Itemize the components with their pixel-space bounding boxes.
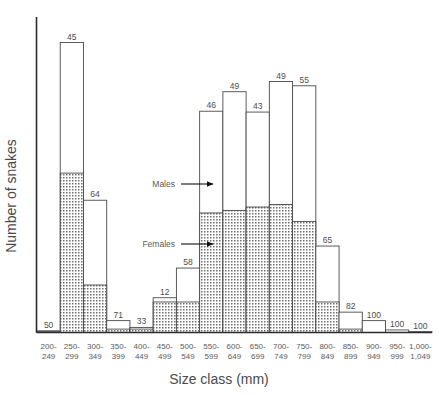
- x-tick-label: 550-599: [203, 342, 219, 361]
- x-tick-labels: 200-249250-299300-349350-399400-449450-4…: [41, 342, 432, 361]
- histogram-bar: 33: [130, 316, 153, 332]
- bar-value-label: 100: [390, 319, 404, 329]
- histogram-bar: 43: [246, 101, 269, 332]
- x-tick-label-line2: 749: [274, 352, 288, 361]
- x-axis-title: Size class (mm): [169, 371, 269, 387]
- x-tick-label-line1: 250-: [64, 342, 80, 351]
- x-tick-label: 950-999: [389, 342, 405, 361]
- snake-size-histogram: 5045647133125846494349556582100100100 20…: [0, 0, 439, 395]
- bar-female-segment: [269, 204, 292, 332]
- x-tick-label-line2: 999: [390, 352, 404, 361]
- x-tick-label-line1: 200-: [41, 342, 57, 351]
- bar-female-segment: [60, 173, 83, 332]
- bar-value-label: 46: [207, 100, 217, 110]
- bar-total-outline: [362, 321, 385, 333]
- x-tick-label-line2: 649: [228, 352, 242, 361]
- x-tick-label-line2: 849: [321, 352, 335, 361]
- x-tick-label-line2: 299: [65, 352, 79, 361]
- x-tick-label: 350-399: [110, 342, 126, 361]
- histogram-bar: 50: [37, 320, 60, 333]
- histogram-bar: 49: [269, 71, 292, 333]
- x-tick-label: 250-299: [64, 342, 80, 361]
- histogram-bar: 100: [409, 321, 432, 333]
- x-tick-label: 400-449: [134, 342, 150, 361]
- males-annotation-label: Males: [152, 179, 175, 189]
- bar-female-segment: [293, 221, 316, 332]
- histogram-bar: 49: [223, 81, 246, 333]
- x-tick-label-line2: 349: [88, 352, 102, 361]
- bar-female-segment: [83, 285, 106, 332]
- x-tick-label: 900-949: [366, 342, 382, 361]
- bar-value-label: 50: [44, 320, 54, 330]
- x-tick-label: 800-849: [319, 342, 335, 361]
- histogram-bar: 55: [293, 75, 316, 333]
- x-tick-label-line2: 599: [205, 352, 219, 361]
- bar-value-label: 49: [230, 81, 240, 91]
- x-tick-label-line1: 750-: [296, 342, 312, 351]
- x-tick-label: 700-749: [273, 342, 289, 361]
- bar-value-label: 43: [253, 101, 263, 111]
- x-tick-label-line2: 449: [135, 352, 149, 361]
- histogram-bar: 64: [83, 189, 106, 332]
- x-tick-label-line2: 249: [42, 352, 56, 361]
- x-tick-label-line2: 399: [112, 352, 126, 361]
- bar-value-label: 64: [90, 189, 100, 199]
- x-tick-label-line2: 1,049: [410, 352, 431, 361]
- x-tick-label: 450-499: [157, 342, 173, 361]
- x-tick-label: 850-899: [343, 342, 359, 361]
- histogram-bar: 46: [200, 100, 223, 332]
- bars-layer: 5045647133125846494349556582100100100: [37, 32, 432, 333]
- histogram-bar: 71: [107, 310, 130, 333]
- x-tick-label-line2: 899: [344, 352, 358, 361]
- bar-value-label: 58: [183, 257, 193, 267]
- bar-value-label: 45: [67, 32, 77, 42]
- bar-value-label: 49: [276, 71, 286, 81]
- bar-value-label: 82: [346, 301, 356, 311]
- x-tick-label-line2: 499: [158, 352, 172, 361]
- bar-value-label: 71: [114, 310, 124, 320]
- females-annotation-label: Females: [142, 239, 175, 249]
- x-tick-label-line1: 850-: [343, 342, 359, 351]
- bar-value-label: 33: [137, 316, 147, 326]
- x-tick-label: 600-649: [226, 342, 242, 361]
- bar-female-segment: [153, 302, 176, 333]
- bar-value-label: 12: [160, 287, 170, 297]
- x-tick-label: 750-799: [296, 342, 312, 361]
- x-tick-label: 500-549: [180, 342, 196, 361]
- x-tick-label-line1: 600-: [226, 342, 242, 351]
- x-tick-label-line1: 650-: [250, 342, 266, 351]
- x-tick-label-line1: 450-: [157, 342, 173, 351]
- x-tick-label-line1: 900-: [366, 342, 382, 351]
- bar-value-label: 65: [323, 235, 333, 245]
- x-tick-label-line1: 400-: [134, 342, 150, 351]
- histogram-bar: 65: [316, 235, 339, 332]
- x-tick-label-line1: 1,000-: [409, 342, 432, 351]
- x-tick-label: 200-249: [41, 342, 57, 361]
- x-tick-label-line1: 550-: [203, 342, 219, 351]
- bar-value-label: 100: [413, 321, 427, 331]
- histogram-bar: 82: [339, 301, 362, 332]
- chart-svg: 5045647133125846494349556582100100100 20…: [0, 0, 439, 395]
- x-tick-label: 1,000-1,049: [409, 342, 432, 361]
- y-axis-title: Number of snakes: [3, 139, 19, 253]
- histogram-bar: 45: [60, 32, 83, 333]
- histogram-bar: 58: [176, 257, 199, 332]
- histogram-bar: 100: [362, 310, 385, 333]
- bar-female-segment: [223, 210, 246, 332]
- x-tick-label-line2: 949: [367, 352, 381, 361]
- histogram-bar: 12: [153, 287, 176, 333]
- x-tick-label-line1: 300-: [87, 342, 103, 351]
- histogram-bar: 100: [386, 319, 409, 333]
- x-tick-label-line1: 500-: [180, 342, 196, 351]
- bar-female-segment: [200, 213, 223, 333]
- x-tick-label-line2: 549: [181, 352, 195, 361]
- x-tick-label-line1: 350-: [110, 342, 126, 351]
- x-tick-label-line1: 950-: [389, 342, 405, 351]
- bar-female-segment: [316, 302, 339, 333]
- bar-female-segment: [176, 302, 199, 333]
- bar-value-label: 55: [299, 75, 309, 85]
- x-tick-label-line1: 800-: [319, 342, 335, 351]
- x-tick-label-line1: 700-: [273, 342, 289, 351]
- x-tick-label: 300-349: [87, 342, 103, 361]
- x-tick-label-line2: 699: [251, 352, 265, 361]
